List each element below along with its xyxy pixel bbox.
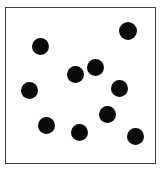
scatter-dot	[21, 82, 38, 99]
scatter-dot	[67, 66, 84, 83]
scatter-dot	[87, 59, 104, 76]
plot-frame	[5, 7, 156, 164]
scatter-dot	[111, 80, 128, 97]
scatter-dot	[127, 128, 144, 145]
scatter-dot	[99, 106, 116, 123]
scatter-dot	[38, 117, 55, 134]
figure-root	[0, 0, 162, 171]
scatter-dot-layer	[6, 8, 155, 163]
scatter-dot	[32, 38, 49, 55]
scatter-dot	[119, 22, 137, 40]
scatter-dot	[71, 124, 88, 141]
